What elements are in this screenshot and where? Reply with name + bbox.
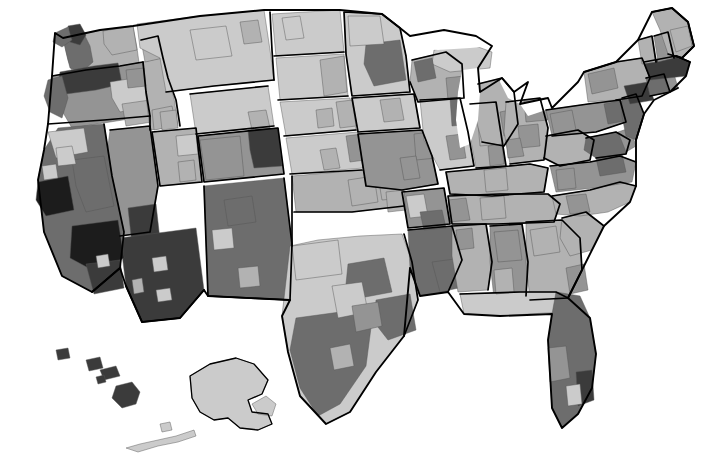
map-container — [0, 0, 714, 468]
region-sd-east — [320, 56, 347, 96]
region-az-hole2 — [156, 288, 172, 302]
region-nm-albuquerque — [224, 196, 256, 226]
region-cluster-nd-west — [282, 16, 304, 40]
region-nashville — [480, 196, 506, 220]
region-cluster-id-se — [160, 110, 178, 130]
region-iowa-desmoines — [380, 98, 404, 122]
region-nm-light1 — [212, 228, 234, 250]
region-florida-panhandle — [460, 292, 560, 316]
us-choropleth-map — [0, 0, 714, 468]
region-atlanta — [530, 226, 560, 256]
region-fl-light — [566, 384, 582, 406]
region-cluster-in-south — [488, 144, 504, 166]
region-north-dakota — [272, 10, 344, 56]
region-birmingham — [494, 230, 522, 262]
region-mt-central — [190, 26, 232, 60]
region-az-hole3 — [132, 278, 144, 294]
region-cluster-mt-ne — [240, 20, 262, 44]
region-charlotte — [566, 194, 590, 214]
region-cluster-ne-lincoln — [316, 108, 334, 128]
region-tx-panhandle — [292, 240, 342, 280]
region-nm-light2 — [238, 266, 260, 288]
hawaii-kauai — [56, 348, 70, 360]
region-cluster-or-ne — [126, 68, 146, 88]
region-cluster-va-west — [556, 168, 576, 190]
region-denver-front-range — [248, 128, 282, 168]
region-cluster-ut-se — [178, 160, 196, 182]
region-mn-north — [348, 16, 384, 46]
alaska-island-1 — [160, 422, 172, 432]
region-tampa — [548, 346, 570, 382]
region-az-hole1 — [152, 256, 168, 272]
region-ca-light-patch2 — [42, 164, 58, 180]
region-louisville — [484, 168, 508, 192]
region-salt-lake — [176, 134, 198, 156]
region-tx-light2 — [330, 344, 354, 370]
region-cluster-al-south — [494, 268, 514, 294]
region-cluster-wi-north — [414, 58, 436, 82]
region-ca-hole — [96, 254, 110, 268]
region-co-west — [200, 136, 244, 180]
